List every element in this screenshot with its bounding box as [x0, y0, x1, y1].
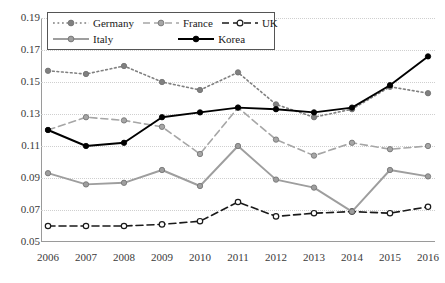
data-point-korea-2006 [45, 127, 50, 132]
data-point-italy-2012 [273, 177, 278, 182]
data-point-korea-2008 [121, 140, 126, 145]
legend-label-uk: UK [262, 17, 278, 29]
legend-swatch-germany [52, 17, 90, 29]
data-point-uk-2007 [83, 223, 88, 228]
legend-item-germany[interactable]: Germany [52, 17, 134, 29]
series-layer [41, 18, 435, 242]
data-point-germany-2011 [235, 70, 240, 75]
data-point-germany-2007 [83, 71, 88, 76]
data-point-france-2013 [311, 153, 316, 158]
data-point-korea-2011 [235, 105, 240, 110]
data-point-uk-2016 [425, 204, 430, 209]
data-point-uk-2008 [121, 223, 126, 228]
y-tick-label: 0.19 [0, 12, 40, 23]
data-point-uk-2009 [159, 222, 164, 227]
data-point-korea-2015 [387, 83, 392, 88]
data-point-uk-2012 [273, 214, 278, 219]
legend: Germany France UK Italy Korea [47, 12, 275, 50]
data-point-korea-2013 [311, 110, 316, 115]
data-point-uk-2015 [387, 211, 392, 216]
data-point-uk-2011 [235, 199, 240, 204]
data-point-germany-2006 [45, 68, 50, 73]
data-point-france-2010 [197, 151, 202, 156]
legend-item-italy[interactable]: Italy [52, 33, 113, 45]
legend-label-italy: Italy [93, 33, 113, 45]
data-point-italy-2011 [235, 143, 240, 148]
legend-swatch-korea [177, 33, 215, 45]
data-point-italy-2008 [121, 180, 126, 185]
data-point-germany-2009 [159, 79, 164, 84]
legend-row-1: Germany France UK [52, 15, 270, 31]
x-tick-label: 2016 [406, 252, 445, 263]
legend-label-france: France [183, 17, 213, 29]
data-point-korea-2012 [273, 107, 278, 112]
y-tick-label: 0.17 [0, 44, 40, 55]
y-tick-label: 0.09 [0, 172, 40, 183]
y-tick-label: 0.05 [0, 236, 40, 247]
data-point-korea-2010 [197, 110, 202, 115]
y-tick-label: 0.07 [0, 204, 40, 215]
line-chart: 0.050.070.090.110.130.150.170.19 2006200… [0, 0, 445, 283]
series-line-uk [48, 202, 428, 226]
data-point-italy-2013 [311, 185, 316, 190]
legend-item-uk[interactable]: UK [221, 17, 278, 29]
legend-swatch-france [142, 17, 180, 29]
data-point-germany-2008 [121, 63, 126, 68]
plot-area [41, 18, 435, 242]
data-point-uk-2013 [311, 211, 316, 216]
data-point-uk-2010 [197, 219, 202, 224]
data-point-korea-2009 [159, 115, 164, 120]
y-tick-label: 0.13 [0, 108, 40, 119]
data-point-italy-2015 [387, 167, 392, 172]
data-point-korea-2014 [349, 105, 354, 110]
data-point-germany-2010 [197, 87, 202, 92]
data-point-france-2014 [349, 140, 354, 145]
data-point-france-2008 [121, 118, 126, 123]
data-point-korea-2016 [425, 54, 430, 59]
data-point-france-2015 [387, 147, 392, 152]
data-point-italy-2016 [425, 174, 430, 179]
legend-swatch-uk [221, 17, 259, 29]
legend-item-france[interactable]: France [142, 17, 213, 29]
data-point-france-2016 [425, 143, 430, 148]
legend-item-korea[interactable]: Korea [177, 33, 245, 45]
data-point-france-2009 [159, 124, 164, 129]
data-point-italy-2007 [83, 182, 88, 187]
data-point-italy-2010 [197, 183, 202, 188]
data-point-uk-2006 [45, 223, 50, 228]
data-point-italy-2009 [159, 167, 164, 172]
data-point-germany-2016 [425, 91, 430, 96]
y-tick-label: 0.11 [0, 140, 40, 151]
data-point-korea-2007 [83, 143, 88, 148]
y-tick-label: 0.15 [0, 76, 40, 87]
data-point-france-2012 [273, 137, 278, 142]
legend-swatch-italy [52, 33, 90, 45]
legend-row-2: Italy Korea [52, 31, 270, 47]
legend-label-germany: Germany [93, 17, 134, 29]
data-point-italy-2014 [349, 209, 354, 214]
y-axis-labels: 0.050.070.090.110.130.150.170.19 [0, 0, 40, 283]
data-point-italy-2006 [45, 171, 50, 176]
legend-label-korea: Korea [218, 33, 245, 45]
data-point-france-2007 [83, 115, 88, 120]
